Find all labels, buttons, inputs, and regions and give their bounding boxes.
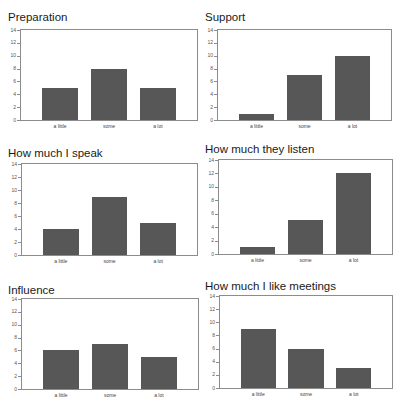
y-tick-mark [215, 200, 218, 201]
y-tick-mark [216, 349, 219, 350]
y-tick-mark [216, 309, 219, 310]
chart-title: How much I speak [8, 148, 103, 160]
y-tick-label: 2 [204, 238, 214, 243]
y-tick-mark [214, 94, 217, 95]
bar-a-little [239, 114, 275, 120]
y-tick-mark [215, 187, 218, 188]
plot-area [21, 298, 199, 390]
plot-area [217, 29, 392, 121]
x-tick-label: a lot [140, 259, 176, 264]
y-tick-label: 4 [203, 92, 213, 97]
y-tick-mark [17, 69, 20, 70]
y-tick-mark [216, 388, 219, 389]
y-tick-mark [18, 203, 21, 204]
y-tick-label: 0 [204, 252, 214, 257]
y-tick-mark [216, 362, 219, 363]
y-tick-label: 10 [7, 322, 17, 327]
y-tick-label: 0 [6, 118, 16, 123]
y-tick-label: 12 [203, 40, 213, 45]
y-tick-label: 10 [203, 53, 213, 58]
y-tick-mark [18, 363, 21, 364]
y-tick-mark [215, 254, 218, 255]
y-tick-mark [214, 69, 217, 70]
y-tick-label: 10 [204, 184, 214, 189]
bar-some [288, 349, 323, 388]
chart-title: How much they listen [205, 144, 314, 156]
bar-a-little [43, 229, 79, 255]
y-tick-mark [18, 389, 21, 390]
y-tick-label: 14 [6, 28, 16, 33]
y-tick-mark [18, 177, 21, 178]
y-tick-label: 8 [205, 333, 215, 338]
x-tick-label: a little [239, 258, 275, 263]
x-tick-label: a lot [336, 258, 372, 263]
y-tick-mark [214, 30, 217, 31]
x-tick-label: some [92, 393, 128, 398]
bar-a-lot [336, 173, 372, 254]
y-tick-label: 0 [203, 118, 213, 123]
y-tick-mark [18, 299, 21, 300]
y-tick-mark [17, 43, 20, 44]
y-tick-label: 6 [204, 211, 214, 216]
y-tick-label: 2 [7, 374, 17, 379]
y-tick-mark [215, 160, 218, 161]
y-tick-mark [18, 242, 21, 243]
bar-some [287, 75, 323, 120]
y-tick-mark [17, 107, 20, 108]
y-tick-mark [214, 120, 217, 121]
bar-a-little [43, 350, 79, 389]
y-tick-mark [18, 312, 21, 313]
x-tick-label: a lot [336, 392, 372, 397]
y-tick-mark [17, 56, 20, 57]
chart-title: Preparation [8, 12, 67, 24]
y-tick-label: 2 [7, 240, 17, 245]
y-tick-label: 4 [7, 361, 17, 366]
y-tick-mark [18, 350, 21, 351]
y-tick-label: 8 [7, 335, 17, 340]
bar-some [92, 197, 128, 256]
y-tick-label: 4 [6, 92, 16, 97]
x-tick-label: some [287, 124, 323, 129]
y-tick-mark [215, 241, 218, 242]
bar-a-little [42, 88, 78, 120]
y-tick-mark [18, 229, 21, 230]
y-tick-mark [18, 216, 21, 217]
y-tick-label: 14 [7, 297, 17, 302]
x-tick-label: a little [238, 124, 274, 129]
x-tick-label: some [91, 124, 127, 129]
y-tick-label: 2 [203, 105, 213, 110]
chart-title: Support [205, 12, 245, 24]
y-tick-label: 0 [205, 386, 215, 391]
y-tick-mark [216, 335, 219, 336]
x-tick-label: some [288, 258, 324, 263]
bar-a-lot [140, 88, 176, 120]
bar-a-lot [336, 368, 371, 388]
y-tick-label: 4 [7, 227, 17, 232]
x-tick-label: some [288, 392, 324, 397]
bar-some [288, 220, 324, 254]
y-tick-label: 6 [203, 79, 213, 84]
y-tick-mark [216, 296, 219, 297]
y-tick-label: 8 [6, 66, 16, 71]
y-tick-label: 12 [205, 307, 215, 312]
y-tick-label: 10 [6, 53, 16, 58]
y-tick-mark [18, 164, 21, 165]
y-tick-mark [215, 227, 218, 228]
bar-a-lot [140, 223, 176, 256]
y-tick-mark [18, 325, 21, 326]
y-tick-mark [215, 214, 218, 215]
y-tick-label: 12 [204, 171, 214, 176]
x-tick-label: a little [42, 124, 78, 129]
chart-title: Influence [8, 285, 55, 297]
y-tick-label: 14 [205, 294, 215, 299]
x-tick-label: a lot [335, 124, 371, 129]
y-tick-label: 8 [7, 201, 17, 206]
y-tick-mark [17, 94, 20, 95]
y-tick-label: 12 [6, 40, 16, 45]
bar-a-lot [335, 56, 371, 120]
y-tick-label: 10 [7, 188, 17, 193]
y-tick-label: 8 [204, 198, 214, 203]
bar-some [91, 69, 127, 120]
y-tick-label: 4 [204, 225, 214, 230]
plot-area [218, 159, 393, 255]
